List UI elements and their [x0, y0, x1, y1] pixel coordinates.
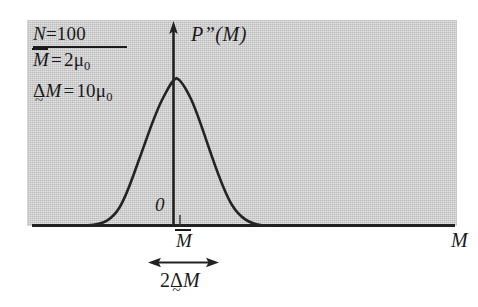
parameter-spread-equals: = — [63, 80, 74, 101]
figure-root: N=100 M=2μ0 Δ~M=10μ0 P”(M) 0 M M 2Δ~M — [0, 0, 478, 307]
origin-label: 0 — [155, 195, 165, 214]
mean-marker-symbol: M — [176, 230, 192, 250]
parameter-n-symbol: N — [33, 23, 46, 44]
under-tilde-icon: ~ — [35, 93, 43, 108]
parameter-block: N=100 M=2μ0 Δ~M=10μ0 — [33, 24, 113, 106]
parameter-mean-symbol: M — [33, 49, 49, 69]
y-axis-label: P”(M) — [191, 24, 247, 44]
mean-marker-label: M — [176, 230, 192, 250]
parameter-spread-variable: M — [45, 80, 61, 101]
width-marker-variable: M — [183, 269, 200, 291]
under-tilde-icon: ~ — [172, 282, 180, 298]
parameter-mean-equals: = — [51, 49, 62, 70]
width-marker-delta: Δ~ — [170, 270, 183, 290]
parameter-spread-delta: Δ~ — [33, 81, 45, 100]
x-axis-label: M — [451, 230, 468, 250]
parameter-n-value: 100 — [57, 23, 86, 44]
parameter-n-equals: = — [46, 23, 57, 44]
parameter-mean-unit-subscript: 0 — [84, 59, 90, 73]
parameter-block-divider-rule — [33, 46, 127, 48]
width-marker-coefficient: 2 — [160, 269, 170, 291]
parameter-mean-coefficient: 2 — [64, 49, 74, 70]
parameter-line-mean: M=2μ0 — [33, 49, 113, 72]
parameter-mean-unit: μ — [74, 49, 84, 70]
gaussian-curve — [88, 78, 278, 225]
parameter-spread-unit: μ — [96, 80, 106, 101]
width-marker-label: 2Δ~M — [160, 270, 200, 290]
parameter-spread-coefficient: 10 — [76, 80, 95, 101]
parameter-line-spread: Δ~M=10μ0 — [33, 81, 113, 103]
parameter-spread-unit-subscript: 0 — [106, 90, 112, 104]
parameter-line-n: N=100 — [33, 24, 113, 43]
